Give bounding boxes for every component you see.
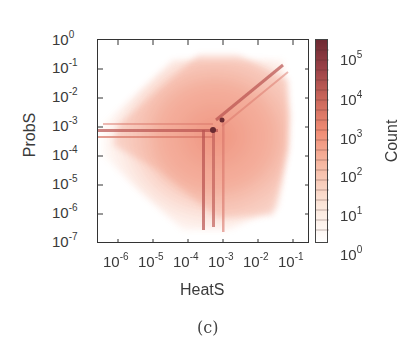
- x-tick-4: 10-2: [243, 254, 269, 269]
- y-axis-label: ProbS: [21, 113, 39, 157]
- x-tick-1: 10-5: [138, 254, 164, 269]
- x-axis-label: HeatS: [180, 281, 224, 299]
- x-tick-2: 10-4: [173, 254, 199, 269]
- y-tick-5: 10-5: [52, 176, 78, 191]
- heatmap-svg: [98, 40, 309, 243]
- heatmap-plot-area: [97, 39, 309, 243]
- y-tick-1: 10-1: [52, 60, 78, 75]
- y-tick-6: 10-6: [52, 205, 78, 220]
- cbar-tick-0: 100: [340, 247, 362, 262]
- colorbar: [315, 39, 328, 243]
- cbar-tick-3: 103: [340, 131, 362, 146]
- y-tick-3: 10-3: [52, 118, 78, 133]
- x-tick-0: 10-6: [103, 254, 129, 269]
- colorbar-label: Count: [383, 120, 401, 163]
- y-tick-7: 10-7: [52, 234, 78, 249]
- figure-caption: (c): [197, 318, 218, 337]
- cbar-tick-1: 101: [340, 208, 362, 223]
- y-tick-0: 100: [52, 32, 74, 47]
- cbar-tick-4: 104: [340, 92, 362, 107]
- cbar-tick-2: 102: [340, 169, 362, 184]
- x-tick-3: 10-3: [208, 254, 234, 269]
- colorbar-ticks: [316, 40, 329, 244]
- x-tick-5: 10-1: [278, 254, 304, 269]
- y-tick-2: 10-2: [52, 89, 78, 104]
- cbar-tick-5: 105: [340, 52, 362, 67]
- y-tick-4: 10-4: [52, 147, 78, 162]
